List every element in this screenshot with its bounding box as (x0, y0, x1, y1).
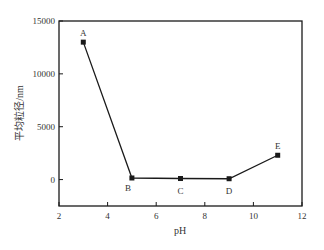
data-point-label: C (177, 186, 183, 196)
x-tick-label: 10 (249, 211, 259, 221)
y-tick-label: 15000 (33, 16, 56, 26)
data-point-marker (178, 176, 183, 181)
data-point-label: B (125, 183, 131, 193)
data-point-label: D (226, 186, 233, 196)
y-tick-label: 10000 (33, 69, 56, 79)
x-tick-label: 6 (154, 211, 159, 221)
x-tick-label: 2 (57, 211, 62, 221)
y-axis-label: 平均粒径/nm (13, 85, 25, 141)
x-tick-label: 8 (203, 211, 208, 221)
data-point-label: E (275, 141, 281, 151)
data-series: ABCDE (80, 28, 281, 196)
series-line (83, 42, 277, 179)
x-tick-label: 4 (105, 211, 110, 221)
data-point-marker (129, 175, 134, 180)
x-tick-label: 12 (298, 211, 307, 221)
data-point-label: A (80, 28, 87, 38)
x-axis-ticks: 24681012 (57, 202, 307, 221)
y-tick-label: 5000 (37, 122, 56, 132)
x-axis-label: pH (174, 225, 186, 236)
data-point-marker (227, 176, 232, 181)
data-point-marker (275, 153, 280, 158)
data-point-marker (81, 40, 86, 45)
line-chart: 24681012 050001000015000 ABCDE pH 平均粒径/n… (0, 0, 324, 250)
y-tick-label: 0 (51, 175, 56, 185)
